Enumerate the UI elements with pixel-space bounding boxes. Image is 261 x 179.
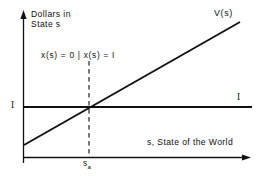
region-annotation-label: x(s) = 0 | x(s) = I (41, 51, 115, 61)
sa-tick-subscript: a (88, 163, 92, 170)
vs-payoff-line (24, 22, 240, 145)
x-axis-label: s, State of the World (147, 137, 233, 147)
x-axis-arrowhead (242, 154, 251, 160)
income-label-left: I (11, 100, 15, 111)
x-axis (24, 154, 252, 160)
x-axis-tick-label-sa: sa (83, 159, 91, 169)
y-axis (20, 10, 26, 163)
y-axis-arrowhead (20, 10, 26, 19)
income-label-right: I (237, 92, 241, 103)
vs-curve-label: V(s) (214, 8, 233, 19)
figure-container: Dollars in State s V(s) x(s) = 0 | x(s) … (0, 0, 261, 179)
y-axis-label: Dollars in State s (31, 9, 71, 29)
